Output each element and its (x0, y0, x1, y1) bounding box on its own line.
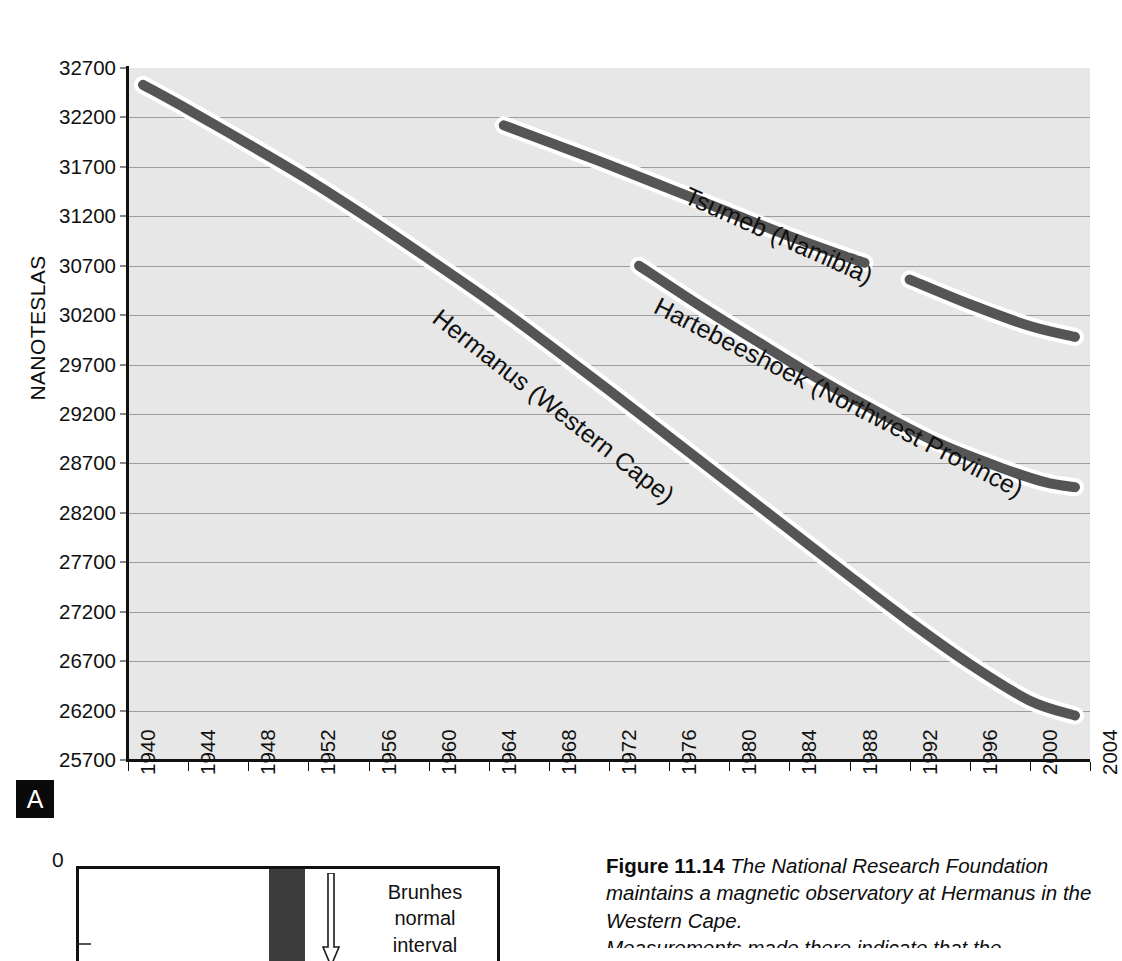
x-axis-tick-mark (669, 762, 670, 771)
panel-b-interval-line1: Brunhes (355, 879, 495, 905)
x-axis-tick-label: 1960 (437, 729, 461, 775)
x-axis-tick-label: 2004 (1098, 729, 1122, 775)
x-axis-tick-label: 1980 (737, 729, 761, 775)
x-axis-tick-label: 1940 (136, 729, 160, 775)
x-axis-tick-layer: 1940194419481952195619601964196819721976… (0, 0, 1110, 840)
x-axis-tick-mark (910, 762, 911, 771)
x-axis-tick-label: 1976 (677, 729, 701, 775)
panel-b-interval-line2: normal (355, 905, 495, 931)
x-axis-tick-mark (369, 762, 370, 771)
panel-b-reversed-band (269, 869, 305, 961)
chart-panel-a: NANOTESLAS 32700322003170031200307003020… (0, 0, 1110, 840)
x-axis-tick-label: 1948 (256, 729, 280, 775)
panel-b-interval-line3: interval (355, 932, 495, 958)
x-axis-tick-mark (970, 762, 971, 771)
caption-line1: The National Research (730, 854, 940, 877)
x-axis-tick-label: 1988 (858, 729, 882, 775)
x-axis-tick-label: 1992 (918, 729, 942, 775)
down-arrow-icon (322, 873, 340, 961)
panel-b-zero-label: 0 (52, 848, 64, 872)
x-axis-tick-mark (549, 762, 550, 771)
caption-line4: Measurements made there indicate that th… (606, 934, 1106, 948)
panel-label-a: A (16, 780, 54, 818)
x-axis-tick-mark (308, 762, 309, 771)
x-axis-tick-label: 1972 (617, 729, 641, 775)
x-axis-tick-label: 1984 (797, 729, 821, 775)
x-axis-tick-mark (1030, 762, 1031, 771)
panel-b-chart: Brunhes normal interval (76, 866, 500, 961)
x-axis-tick-label: 1952 (316, 729, 340, 775)
x-axis-tick-mark (789, 762, 790, 771)
x-axis-tick-label: 1968 (557, 729, 581, 775)
x-axis-tick-mark (729, 762, 730, 771)
panel-b-interval-label: Brunhes normal interval (355, 879, 495, 958)
caption-number: 11.14 (674, 854, 724, 877)
x-axis-tick-mark (850, 762, 851, 771)
x-axis-tick-mark (489, 762, 490, 771)
x-axis-tick-mark (1090, 762, 1091, 771)
x-axis-tick-label: 2000 (1038, 729, 1062, 775)
x-axis-tick-label: 1956 (377, 729, 401, 775)
caption-lead: Figure (606, 854, 669, 877)
x-axis-tick-label: 1944 (196, 729, 220, 775)
x-axis-tick-mark (128, 762, 129, 771)
x-axis-tick-label: 1996 (978, 729, 1002, 775)
x-axis-tick-mark (609, 762, 610, 771)
panel-b-axis-tick (79, 943, 91, 945)
x-axis-tick-mark (188, 762, 189, 771)
figure-caption: Figure 11.14 The National Research Found… (606, 852, 1106, 948)
x-axis-tick-mark (429, 762, 430, 771)
x-axis-tick-mark (248, 762, 249, 771)
x-axis-tick-label: 1964 (497, 729, 521, 775)
